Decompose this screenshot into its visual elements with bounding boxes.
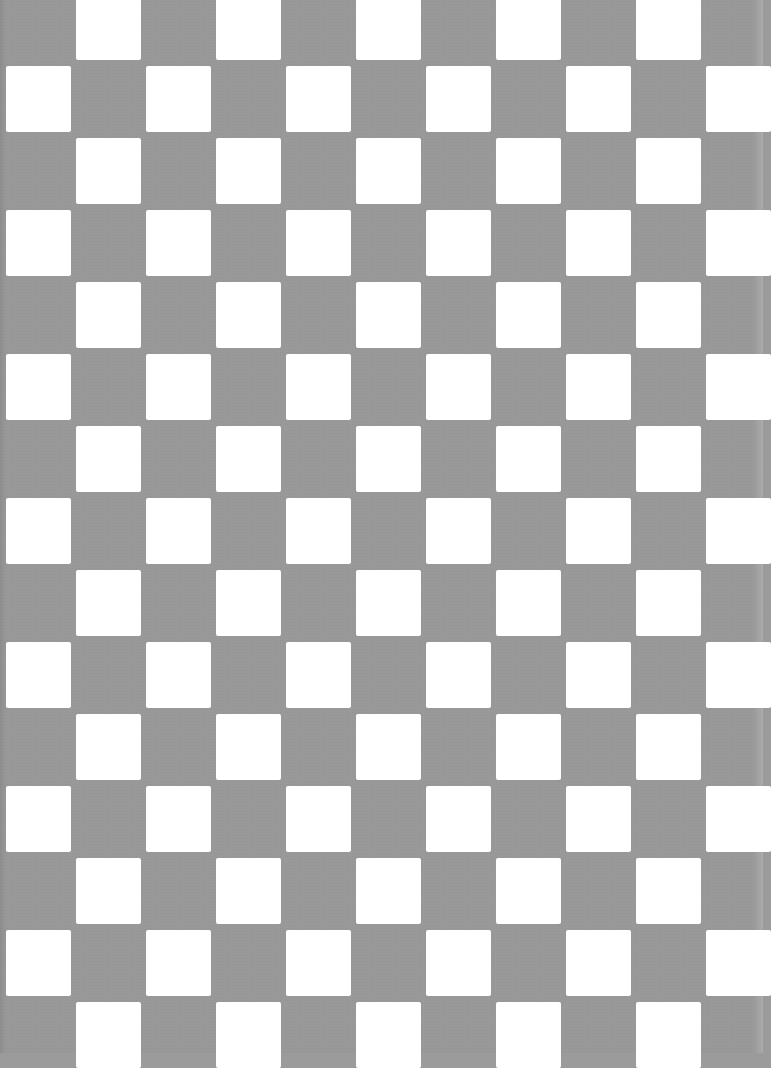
white-square <box>566 786 631 852</box>
white-square <box>496 858 561 924</box>
white-square <box>496 138 561 204</box>
white-square <box>636 138 701 204</box>
white-square <box>216 570 281 636</box>
white-square <box>426 354 491 420</box>
white-square <box>286 210 351 276</box>
white-square <box>706 786 771 852</box>
white-square <box>636 282 701 348</box>
white-square <box>426 930 491 996</box>
white-square <box>636 858 701 924</box>
white-square <box>216 282 281 348</box>
white-square <box>6 66 71 132</box>
white-square <box>146 66 211 132</box>
white-square <box>76 858 141 924</box>
white-square <box>356 0 421 60</box>
white-square <box>146 642 211 708</box>
white-square <box>76 1002 141 1068</box>
white-square <box>706 210 771 276</box>
white-square <box>146 498 211 564</box>
white-square <box>146 930 211 996</box>
white-square <box>636 0 701 60</box>
white-square <box>706 642 771 708</box>
white-square <box>636 426 701 492</box>
white-square <box>216 426 281 492</box>
white-square <box>216 138 281 204</box>
white-square <box>636 570 701 636</box>
white-square <box>706 66 771 132</box>
white-square <box>496 714 561 780</box>
white-square <box>356 1002 421 1068</box>
white-square <box>216 0 281 60</box>
white-square <box>6 498 71 564</box>
white-square <box>146 210 211 276</box>
white-square <box>286 642 351 708</box>
white-square <box>216 858 281 924</box>
white-square <box>286 498 351 564</box>
white-square <box>356 714 421 780</box>
white-square <box>426 642 491 708</box>
white-square <box>216 714 281 780</box>
white-square <box>356 858 421 924</box>
white-square <box>426 786 491 852</box>
white-square <box>286 786 351 852</box>
white-square <box>76 0 141 60</box>
white-square <box>426 210 491 276</box>
white-square <box>496 282 561 348</box>
white-square <box>6 210 71 276</box>
white-square <box>6 786 71 852</box>
white-square <box>706 930 771 996</box>
white-square <box>566 498 631 564</box>
white-square <box>356 570 421 636</box>
white-square <box>76 426 141 492</box>
white-square <box>566 930 631 996</box>
white-square <box>706 498 771 564</box>
white-square <box>146 786 211 852</box>
white-square <box>286 354 351 420</box>
white-square <box>76 570 141 636</box>
white-square <box>146 354 211 420</box>
white-square <box>286 930 351 996</box>
white-square <box>496 0 561 60</box>
white-square <box>76 714 141 780</box>
white-square <box>6 354 71 420</box>
white-square <box>636 1002 701 1068</box>
white-square <box>76 138 141 204</box>
white-square <box>496 570 561 636</box>
white-square <box>566 66 631 132</box>
white-square <box>706 354 771 420</box>
white-square <box>356 426 421 492</box>
white-square <box>496 1002 561 1068</box>
white-square <box>356 282 421 348</box>
white-square <box>496 426 561 492</box>
white-square <box>216 1002 281 1068</box>
white-square <box>76 282 141 348</box>
white-square <box>566 354 631 420</box>
white-square <box>286 66 351 132</box>
white-square <box>426 498 491 564</box>
white-square <box>356 138 421 204</box>
white-square <box>6 930 71 996</box>
white-square <box>566 210 631 276</box>
white-square <box>636 714 701 780</box>
white-square <box>426 66 491 132</box>
white-square <box>6 642 71 708</box>
white-square <box>566 642 631 708</box>
